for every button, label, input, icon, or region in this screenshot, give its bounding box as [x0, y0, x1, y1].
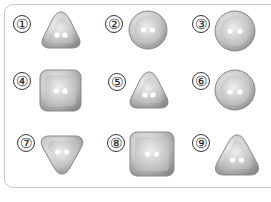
label-3: ③	[192, 15, 210, 33]
label-7: ⑦	[17, 134, 35, 152]
label-9: ⑨	[192, 134, 210, 152]
square-button-icon	[39, 69, 82, 112]
label-1: ①	[13, 15, 31, 33]
label-2: ②	[105, 15, 123, 33]
label-5: ⑤	[108, 73, 126, 91]
circle-button-icon	[127, 9, 169, 51]
triangle-button-icon	[40, 10, 82, 50]
label-6: ⑥	[192, 72, 210, 90]
label-4: ④	[13, 72, 31, 90]
label-8: ⑧	[107, 134, 125, 152]
inverted-triangle-button-icon	[39, 134, 85, 176]
circle-button-icon	[213, 68, 257, 112]
square-button-icon	[129, 131, 175, 177]
triangle-button-icon	[213, 133, 261, 177]
circle-button-icon	[213, 9, 257, 53]
triangle-button-icon	[128, 70, 170, 110]
